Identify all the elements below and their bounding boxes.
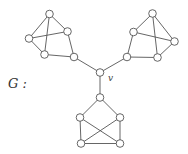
vertex-R4 xyxy=(123,53,131,61)
vertex-L3 xyxy=(25,35,33,43)
vertex-L1 xyxy=(46,10,54,18)
edge-R1-R5 xyxy=(153,14,158,58)
vertex-L5 xyxy=(70,53,78,61)
nodes-group xyxy=(25,10,178,148)
vertex-B2 xyxy=(76,114,84,122)
vertex-v xyxy=(96,69,104,77)
vertex-L4 xyxy=(41,51,49,59)
graph-name-label: G : xyxy=(8,76,27,91)
vertex-R5 xyxy=(154,54,162,62)
vertex-B1 xyxy=(96,94,104,102)
vertex-R1 xyxy=(149,10,157,18)
center-vertex-label: v xyxy=(108,73,113,83)
vertex-L2 xyxy=(64,28,72,36)
vertex-R3 xyxy=(171,38,179,46)
vertex-B3 xyxy=(116,114,124,122)
edge-R4-R5 xyxy=(127,57,158,58)
edge-L5-v xyxy=(74,57,100,73)
edge-L1-L3 xyxy=(29,14,50,39)
edge-R4-v xyxy=(100,57,127,73)
edges-group xyxy=(29,14,175,144)
edge-L3-L2 xyxy=(29,32,68,39)
edge-L1-L4 xyxy=(45,14,50,55)
vertex-R2 xyxy=(130,28,138,36)
graph-diagram: G : v xyxy=(0,0,188,154)
vertex-B4 xyxy=(77,140,85,148)
edge-L4-L5 xyxy=(45,55,75,58)
vertex-B5 xyxy=(116,140,124,148)
